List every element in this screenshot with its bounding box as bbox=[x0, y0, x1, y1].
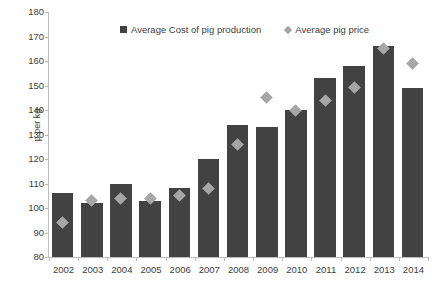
bar-group-2014 bbox=[399, 12, 428, 257]
bar-group-2009 bbox=[253, 12, 282, 257]
y-tick-label-120: 120 bbox=[22, 155, 44, 163]
y-tick-label-150: 150 bbox=[22, 82, 44, 90]
y-tick-label-80: 80 bbox=[22, 253, 44, 261]
x-tick-mark-2009 bbox=[253, 257, 254, 261]
bar-group-2008 bbox=[224, 12, 253, 257]
y-tick-label-100: 100 bbox=[22, 204, 44, 212]
x-tick-mark-2010 bbox=[282, 257, 283, 261]
bar-group-2003 bbox=[78, 12, 107, 257]
y-tick-label-170: 170 bbox=[22, 33, 44, 41]
x-tick-mark-2008 bbox=[224, 257, 225, 261]
bar-2010 bbox=[285, 110, 307, 257]
bar-group-2011 bbox=[311, 12, 340, 257]
x-tick-mark-2011 bbox=[311, 257, 312, 261]
y-tick-label-140: 140 bbox=[22, 106, 44, 114]
x-tick-mark-2013 bbox=[370, 257, 371, 261]
marker-2014 bbox=[406, 57, 419, 70]
bar-2013 bbox=[373, 46, 395, 257]
x-tick-mark-2006 bbox=[166, 257, 167, 261]
y-tick-label-110: 110 bbox=[22, 180, 44, 188]
bar-group-2002 bbox=[49, 12, 78, 257]
bar-2014 bbox=[402, 88, 424, 257]
plot-area bbox=[49, 12, 428, 257]
x-axis-line bbox=[48, 257, 428, 258]
bar-group-2006 bbox=[166, 12, 195, 257]
bar-2012 bbox=[343, 66, 365, 257]
y-tick-label-160: 160 bbox=[22, 57, 44, 65]
x-tick-mark-2003 bbox=[78, 257, 79, 261]
pig-price-chart: p per kg 1801701601501401301201101009080… bbox=[0, 0, 432, 291]
y-tick-label-90: 90 bbox=[22, 229, 44, 237]
x-tick-mark-2005 bbox=[136, 257, 137, 261]
x-tick-mark-end bbox=[428, 257, 429, 261]
x-tick-mark-2012 bbox=[341, 257, 342, 261]
y-tick-label-130: 130 bbox=[22, 131, 44, 139]
y-tick-label-180: 180 bbox=[22, 8, 44, 16]
bar-group-2005 bbox=[136, 12, 165, 257]
bar-group-2007 bbox=[195, 12, 224, 257]
bar-group-2012 bbox=[341, 12, 370, 257]
bar-2007 bbox=[198, 159, 220, 257]
bar-2005 bbox=[139, 201, 161, 257]
x-tick-mark-2007 bbox=[195, 257, 196, 261]
x-tick-mark-2004 bbox=[107, 257, 108, 261]
bar-group-2013 bbox=[370, 12, 399, 257]
bar-2009 bbox=[256, 127, 278, 257]
x-tick-mark-2014 bbox=[399, 257, 400, 261]
bar-group-2004 bbox=[107, 12, 136, 257]
bar-group-2010 bbox=[282, 12, 311, 257]
x-tick-mark-2002 bbox=[49, 257, 50, 261]
y-axis-title: p per kg bbox=[32, 90, 42, 160]
bar-2003 bbox=[81, 203, 103, 257]
x-tick-label-2014: 2014 bbox=[393, 264, 432, 275]
marker-2009 bbox=[260, 91, 273, 104]
